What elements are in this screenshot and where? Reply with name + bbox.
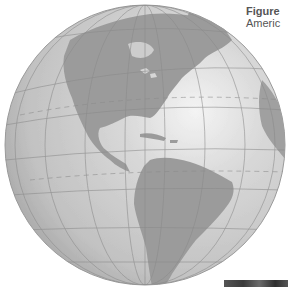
- caption-text: Americ: [246, 17, 280, 29]
- figure-caption: Figure Americ: [246, 5, 280, 29]
- globe-illustration: [0, 0, 288, 287]
- caption-label: Figure: [246, 5, 280, 17]
- adjacent-photo-edge: [224, 280, 288, 287]
